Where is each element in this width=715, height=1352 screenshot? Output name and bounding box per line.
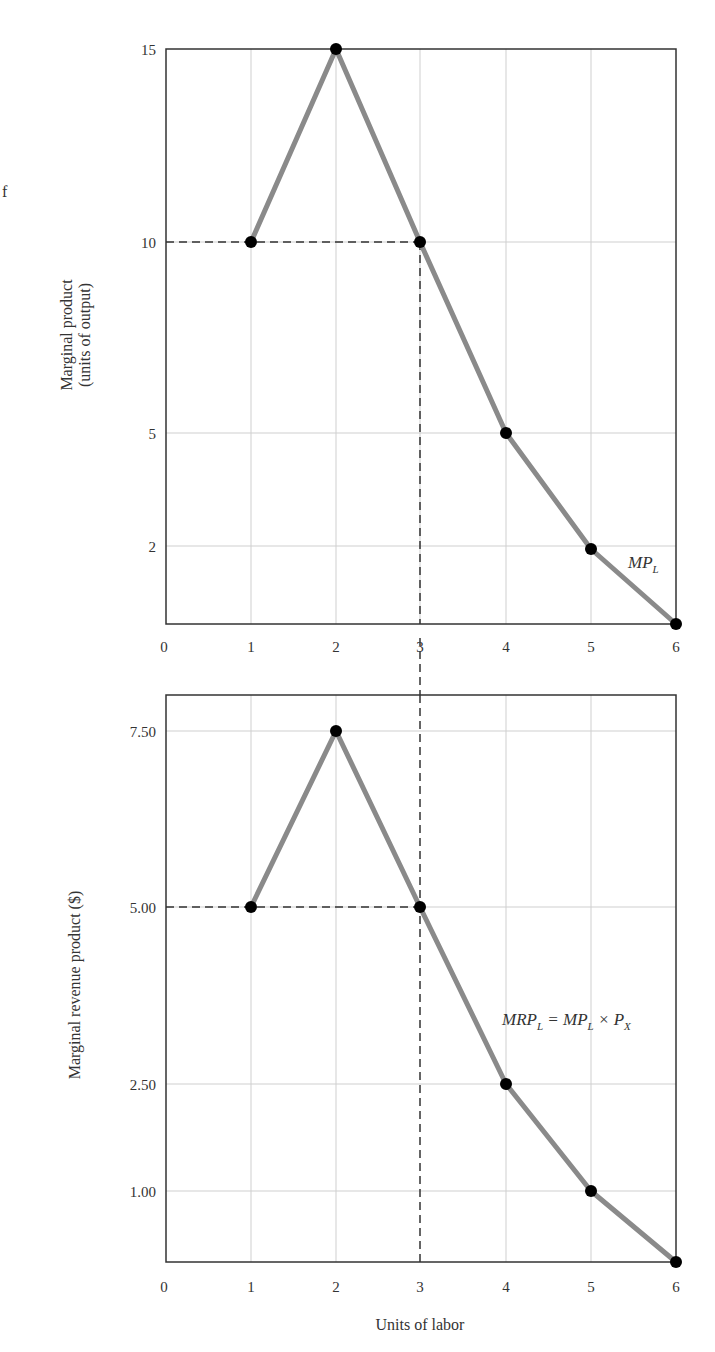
x-tick-label: 5 xyxy=(587,639,595,655)
figure: f MPL xyxy=(0,0,715,1352)
lower-y-ticks: 7.50 5.00 2.50 1.00 xyxy=(130,724,156,1200)
lower-x-ticks: 0 1 2 3 4 5 6 xyxy=(160,1279,680,1295)
data-point xyxy=(330,725,342,737)
mp-series-label: MPL xyxy=(627,553,659,575)
data-point xyxy=(500,427,512,439)
upper-grid xyxy=(166,49,676,624)
x-tick-label: 6 xyxy=(672,1279,680,1295)
y-tick-label: 15 xyxy=(141,42,156,58)
x-tick-label: 4 xyxy=(502,1279,510,1295)
data-point xyxy=(670,618,682,630)
x-tick-label: 5 xyxy=(587,1279,595,1295)
x-axis-title: Units of labor xyxy=(376,1316,466,1333)
upper-y-axis-title: Marginal product (units of output) xyxy=(58,279,94,391)
y-tick-label: 7.50 xyxy=(130,724,156,740)
data-point xyxy=(414,901,426,913)
data-point xyxy=(245,236,257,248)
x-tick-label: 3 xyxy=(416,1279,424,1295)
x-tick-label: 4 xyxy=(502,639,510,655)
lower-plot-frame xyxy=(166,695,676,1262)
mp-line xyxy=(251,49,676,624)
data-point xyxy=(500,1078,512,1090)
y-tick-label: 10 xyxy=(141,235,156,251)
data-point xyxy=(330,43,342,55)
data-point xyxy=(585,543,597,555)
lower-chart: MRPL = MPL × PX 7.50 5.00 2.50 1.00 0 1 … xyxy=(66,695,682,1333)
x-tick-label: 2 xyxy=(332,639,340,655)
data-point xyxy=(245,901,257,913)
upper-plot-frame xyxy=(166,49,676,624)
mrp-line xyxy=(251,731,676,1262)
x-tick-label: 1 xyxy=(247,639,255,655)
lower-grid xyxy=(166,695,676,1262)
fragment-text: f xyxy=(2,183,8,200)
x-tick-label: 0 xyxy=(160,639,168,655)
data-point xyxy=(670,1256,682,1268)
x-tick-label: 2 xyxy=(332,1279,340,1295)
svg-text:Marginal revenue product ($): Marginal revenue product ($) xyxy=(66,891,84,1080)
lower-y-axis-title: Marginal revenue product ($) xyxy=(66,891,84,1080)
x-tick-label: 6 xyxy=(672,639,680,655)
upper-chart: MPL 15 10 5 2 0 1 2 3 4 5 6 Marginal pro… xyxy=(58,42,682,695)
data-point xyxy=(414,236,426,248)
svg-text:(units of output): (units of output) xyxy=(76,283,94,387)
svg-text:Marginal product: Marginal product xyxy=(58,279,76,391)
x-tick-label: 1 xyxy=(247,1279,255,1295)
mrp-series-label: MRPL = MPL × PX xyxy=(501,1010,632,1032)
upper-y-ticks: 15 10 5 2 xyxy=(141,42,156,555)
upper-x-ticks: 0 1 2 3 4 5 6 xyxy=(160,639,680,655)
y-tick-label: 5 xyxy=(149,426,157,442)
y-tick-label: 5.00 xyxy=(130,900,156,916)
data-point xyxy=(585,1185,597,1197)
y-tick-label: 2.50 xyxy=(130,1077,156,1093)
y-tick-label: 1.00 xyxy=(130,1184,156,1200)
y-tick-label: 2 xyxy=(149,539,157,555)
x-tick-label: 3 xyxy=(416,639,424,655)
x-tick-label: 0 xyxy=(160,1279,168,1295)
